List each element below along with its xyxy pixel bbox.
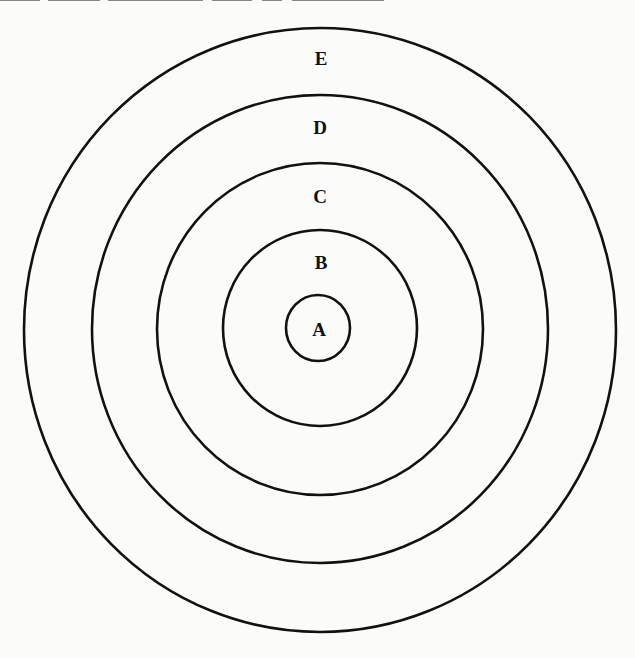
concentric-circles-diagram: E D C B A	[0, 0, 635, 658]
label-a: A	[312, 319, 326, 340]
label-c: C	[313, 186, 327, 207]
label-d: D	[313, 117, 327, 138]
label-e: E	[315, 48, 328, 69]
label-b: B	[315, 252, 328, 273]
